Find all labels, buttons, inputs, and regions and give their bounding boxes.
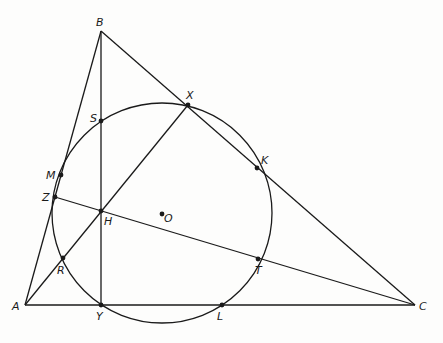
altitude-AX xyxy=(25,105,188,305)
point-label-s: S xyxy=(90,112,97,125)
point-label-y: Y xyxy=(96,310,104,323)
point-label-z: Z xyxy=(41,191,50,204)
point-label-h: H xyxy=(104,215,112,228)
geometry-figure: ABCXYZHSMRKTLO xyxy=(0,0,443,343)
point-s-dot xyxy=(99,119,104,124)
point-z-dot xyxy=(53,195,58,200)
point-r-dot xyxy=(61,256,66,261)
point-x-dot xyxy=(186,103,191,108)
point-label-c: C xyxy=(419,300,427,313)
point-label-k: K xyxy=(261,154,269,167)
point-label-o: O xyxy=(164,212,173,225)
point-label-r: R xyxy=(57,264,65,277)
segments xyxy=(25,31,415,305)
triangle-nine-point-circle-diagram: ABCXYZHSMRKTLO xyxy=(0,0,443,343)
point-label-m: M xyxy=(46,169,56,182)
point-label-b: B xyxy=(96,16,104,29)
point-k-dot xyxy=(255,166,260,171)
point-label-l: L xyxy=(217,310,223,323)
point-y-dot xyxy=(99,303,104,308)
point-label-a: A xyxy=(11,300,20,313)
point-label-x: X xyxy=(185,89,194,102)
point-t-dot xyxy=(256,257,261,262)
point-label-t: T xyxy=(255,264,263,277)
point-labels: ABCXYZHSMRKTLO xyxy=(11,16,427,323)
point-m-dot xyxy=(59,173,64,178)
point-h-dot xyxy=(99,209,104,214)
point-l-dot xyxy=(220,303,225,308)
altitude-CZ xyxy=(55,197,415,305)
